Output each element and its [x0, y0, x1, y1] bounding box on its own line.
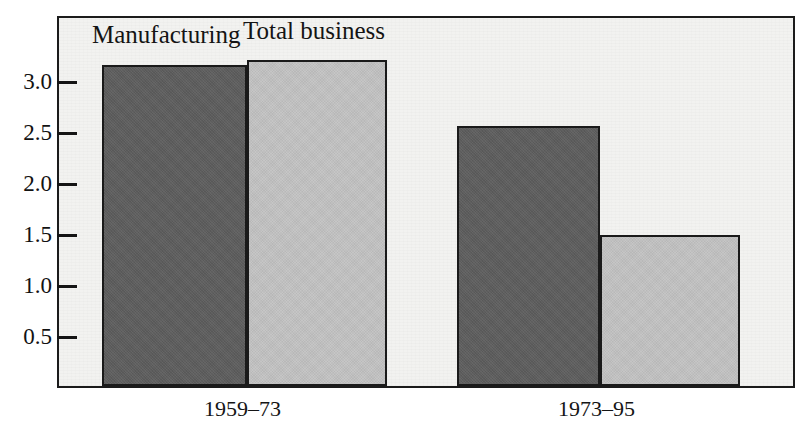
plot-area: [57, 16, 795, 388]
bar-manufacturing-1959–73: [102, 65, 247, 386]
figure-canvas: 0.51.01.52.02.53.0 1959–731973–95 Manufa…: [0, 0, 812, 439]
cropped-caption-sliver: [120, 0, 540, 6]
y-axis-tick-label: 2.5: [4, 121, 52, 144]
x-axis-category-label: 1973–95: [558, 398, 635, 420]
y-axis-tick-label: 3.0: [4, 70, 52, 93]
y-axis-tick-label: 1.5: [4, 223, 52, 246]
y-axis-tick: [57, 132, 77, 135]
bar-total-business-1973–95: [600, 235, 740, 386]
bars-layer: [59, 18, 793, 386]
y-axis-tick-label: 1.0: [4, 274, 52, 297]
series-label-manufacturing: Manufacturing: [92, 22, 241, 47]
x-axis: 1959–731973–95: [57, 398, 795, 432]
y-axis-tick-label: 2.0: [4, 172, 52, 195]
y-axis-tick: [57, 81, 77, 84]
bar-total-business-1959–73: [247, 60, 387, 386]
y-axis-tick: [57, 183, 77, 186]
y-axis-tick-label: 0.5: [4, 325, 52, 348]
bar-manufacturing-1973–95: [457, 126, 600, 386]
y-axis-tick: [57, 234, 77, 237]
y-axis-tick: [57, 336, 77, 339]
y-axis: 0.51.01.52.02.53.0: [0, 0, 52, 439]
series-label-total-business: Total business: [243, 18, 385, 43]
y-axis-tick: [57, 285, 77, 288]
x-axis-category-label: 1959–73: [204, 398, 281, 420]
